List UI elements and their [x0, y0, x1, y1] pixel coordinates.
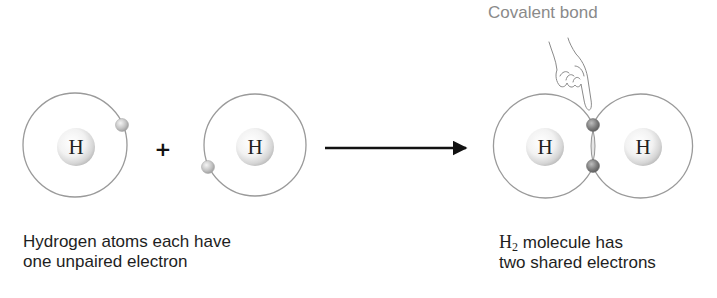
bond-overlap: [591, 130, 595, 162]
nucleus-symbol: H: [247, 135, 262, 159]
covalent-bond-label: Covalent bond: [488, 3, 598, 23]
hydrogen-atom-right: H: [202, 94, 307, 196]
reactants-caption-line2: one unpaired electron: [23, 252, 231, 272]
nucleus-symbol: H: [68, 135, 83, 159]
unpaired-electron: [202, 161, 215, 174]
pointing-hand-icon: [549, 38, 591, 110]
nucleus-symbol: H: [635, 135, 650, 159]
nucleus-symbol: H: [537, 135, 552, 159]
plus-sign: +: [155, 137, 172, 161]
product-caption-line2: two shared electrons: [499, 253, 656, 273]
hydrogen-atom-left: H: [23, 93, 129, 197]
product-caption-line1-text: molecule has: [518, 233, 623, 252]
formula-symbol: H: [499, 232, 512, 252]
unpaired-electron: [116, 119, 129, 132]
h2-formula: H2: [499, 232, 518, 252]
product-caption-line1: H2 molecule has: [499, 232, 656, 253]
product-caption: H2 molecule has two shared electrons: [499, 232, 656, 273]
shared-electron: [587, 160, 600, 173]
h2-molecule: H H: [493, 94, 692, 198]
shared-electron: [587, 119, 600, 132]
reactants-caption: Hydrogen atoms each have one unpaired el…: [23, 232, 231, 272]
reactants-caption-line1: Hydrogen atoms each have: [23, 232, 231, 252]
